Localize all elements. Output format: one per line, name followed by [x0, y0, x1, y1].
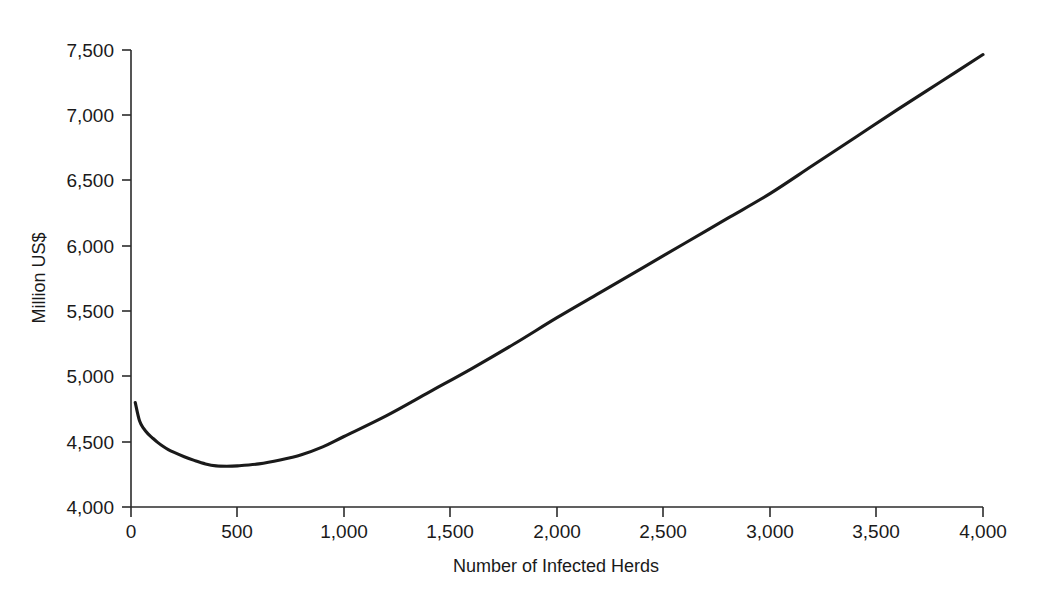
x-tick-label: 3,500 — [852, 521, 900, 542]
y-axis-tick-labels: 7,500 7,000 6,500 6,000 5,500 5,000 4,50… — [66, 40, 114, 518]
y-tick-label: 4,000 — [66, 497, 114, 518]
x-axis-title: Number of Infected Herds — [453, 556, 659, 576]
x-tick-label: 500 — [221, 521, 253, 542]
x-tick-label: 3,000 — [746, 521, 794, 542]
y-axis-title: Million US$ — [29, 232, 49, 323]
y-axis-ticks — [122, 50, 131, 507]
x-axis-ticks — [131, 507, 983, 517]
y-tick-label: 7,500 — [66, 40, 114, 61]
y-tick-label: 5,500 — [66, 301, 114, 322]
x-tick-label: 1,500 — [426, 521, 474, 542]
y-tick-label: 6,500 — [66, 170, 114, 191]
x-tick-label: 4,000 — [959, 521, 1007, 542]
x-axis-tick-labels: 0 500 1,000 1,500 2,000 2,500 3,000 3,50… — [126, 521, 1007, 542]
y-tick-label: 5,000 — [66, 366, 114, 387]
x-tick-label: 2,000 — [533, 521, 581, 542]
chart-figure: 7,500 7,000 6,500 6,000 5,500 5,000 4,50… — [0, 0, 1042, 605]
x-tick-label: 1,000 — [320, 521, 368, 542]
x-tick-label: 0 — [126, 521, 137, 542]
y-tick-label: 7,000 — [66, 105, 114, 126]
data-series-line — [135, 55, 983, 467]
chart-container: 7,500 7,000 6,500 6,000 5,500 5,000 4,50… — [0, 0, 1042, 605]
chart-svg: 7,500 7,000 6,500 6,000 5,500 5,000 4,50… — [0, 0, 1042, 605]
x-tick-label: 2,500 — [639, 521, 687, 542]
y-tick-label: 4,500 — [66, 432, 114, 453]
y-tick-label: 6,000 — [66, 236, 114, 257]
